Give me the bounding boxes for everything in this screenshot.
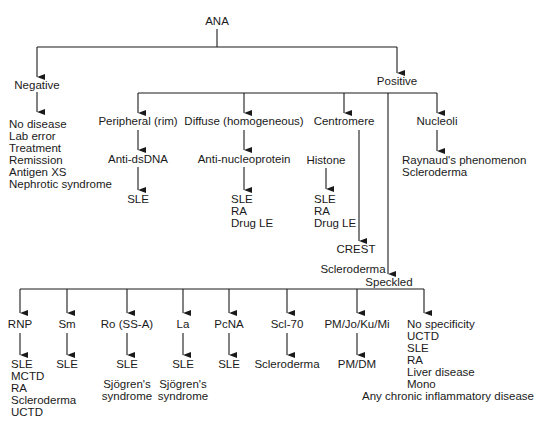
list-item: Sjögren's [158,378,209,390]
node-speckled: Speckled [365,276,412,288]
node-rnp: RNP [8,318,32,330]
node-scl70-scleroderma: Scleroderma [254,358,319,370]
diffuse-diseases-list: SLE RA Drug LE [231,193,273,229]
node-no-specificity: No specificity [407,318,475,330]
list-item: Scleroderma [11,394,76,406]
list-item: syndrome [102,390,153,402]
node-negative: Negative [14,79,59,91]
node-sm: Sm [58,318,75,330]
list-item: Remission [9,154,112,166]
list-item: Antigen XS [9,166,112,178]
node-crest-scleroderma: Scleroderma [320,263,385,275]
node-ana: ANA [205,15,229,27]
list-item: RA [231,205,273,217]
node-anti-nucleoprotein: Anti-nucleoprotein [198,153,291,165]
node-ro-ssa: Ro (SS-A) [101,318,153,330]
node-ro-sjogren: Sjögren's syndrome [102,378,153,402]
list-item: Drug LE [314,217,356,229]
node-la-sjogren: Sjögren's syndrome [158,378,209,402]
node-diffuse: Diffuse (homogeneous) [184,115,303,127]
list-item: SLE [407,342,475,354]
list-item: Mono [407,378,475,390]
list-item: Treatment [9,142,112,154]
node-crest: CREST [337,243,376,255]
list-item: Raynaud's phenomenon [402,154,526,166]
node-histone: Histone [307,154,346,166]
list-item: UCTD [407,330,475,342]
list-item: Nephrotic syndrome [9,178,112,190]
list-item: SLE [314,193,356,205]
node-la-sle: SLE [172,358,194,370]
list-item: Liver disease [407,366,475,378]
node-anti-dsdna: Anti-dsDNA [108,153,168,165]
node-pm-dm: PM/DM [338,358,376,370]
node-la: La [177,318,190,330]
negative-outcomes-list: No disease Lab error Treatment Remission… [9,118,112,190]
list-item: syndrome [158,390,209,402]
nucleoli-diseases-list: Raynaud's phenomenon Scleroderma [402,154,526,178]
list-item: Lab error [9,130,112,142]
histone-diseases-list: SLE RA Drug LE [314,193,356,229]
node-peripheral: Peripheral (rim) [98,115,177,127]
list-item: Sjögren's [102,378,153,390]
node-ro-sle: SLE [116,358,138,370]
node-centromere: Centromere [314,115,375,127]
list-item: No disease [9,118,112,130]
list-item: Scleroderma [402,166,526,178]
list-item: Drug LE [231,217,273,229]
list-item: UCTD [11,406,76,418]
list-item: RA [314,205,356,217]
list-item: MCTD [11,370,76,382]
node-any-chronic-inflammatory: Any chronic inflammatory disease [362,390,534,402]
node-peripheral-sle: SLE [127,193,149,205]
node-pcna-sle: SLE [218,358,240,370]
node-sm-sle: SLE [56,358,78,370]
node-nucleoli: Nucleoli [417,115,458,127]
node-pm-jo-ku-mi: PM/Jo/Ku/Mi [324,318,389,330]
node-pcna: PcNA [214,318,243,330]
list-item: SLE [231,193,273,205]
node-scl-70: Scl-70 [271,318,304,330]
list-item: RA [11,382,76,394]
list-item: RA [407,354,475,366]
no-specificity-list: No specificity UCTD SLE RA Liver disease… [407,318,475,390]
node-positive: Positive [377,75,417,87]
